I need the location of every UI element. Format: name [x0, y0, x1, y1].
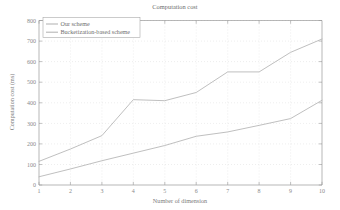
legend: Our scheme Bucketization-based scheme: [43, 18, 140, 38]
y-tick-label: 400: [27, 100, 36, 106]
x-tick-label: 1: [38, 188, 41, 194]
y-tick-label: 600: [27, 59, 36, 65]
x-tick-label: 4: [132, 188, 135, 194]
x-tick-label: 10: [319, 188, 325, 194]
y-tick-label: 200: [27, 141, 36, 147]
x-tick-label: 6: [195, 188, 198, 194]
y-tick-label: 700: [27, 38, 36, 44]
chart-figure: Computation cost: [0, 0, 340, 210]
y-tick-label: 100: [27, 162, 36, 168]
y-tick-label: 0: [33, 182, 36, 188]
chart-title: Computation cost: [152, 3, 197, 10]
x-tick-label: 8: [258, 188, 261, 194]
x-tick-label: 7: [226, 188, 229, 194]
x-tick-label: 3: [100, 188, 103, 194]
legend-label-our-scheme: Our scheme: [61, 21, 91, 27]
computation-cost-line-chart: Computation cost: [0, 0, 340, 210]
y-tick-label: 800: [27, 18, 36, 24]
y-tick-label: 300: [27, 121, 36, 127]
y-tick-label: 500: [27, 79, 36, 85]
x-tick-label: 2: [69, 188, 72, 194]
x-axis-label: Number of dimension: [153, 197, 207, 204]
y-axis-tick-labels: 0 100 200 300 400 500 600 700 800: [27, 18, 36, 189]
legend-label-bucketization-based-scheme: Bucketization-based scheme: [61, 29, 131, 35]
x-tick-label: 9: [289, 188, 292, 194]
y-axis-label: Computation cost (ms): [8, 74, 16, 131]
x-tick-label: 5: [163, 188, 166, 194]
